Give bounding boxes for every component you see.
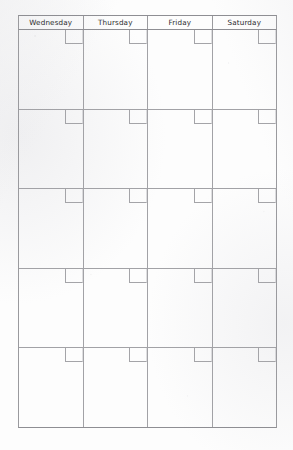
day-cell[interactable] bbox=[213, 269, 277, 348]
column-header-label: Wednesday bbox=[29, 19, 72, 26]
column-header-wednesday: Wednesday bbox=[19, 16, 84, 29]
date-number-box bbox=[65, 189, 83, 203]
date-number bbox=[66, 189, 82, 202]
column-header-saturday: Saturday bbox=[213, 16, 277, 29]
column-header-label: Saturday bbox=[227, 19, 261, 26]
column-header-friday: Friday bbox=[148, 16, 213, 29]
calendar-week-row bbox=[19, 348, 276, 427]
day-cell[interactable] bbox=[19, 269, 84, 348]
date-number-box bbox=[258, 348, 276, 362]
day-cell[interactable] bbox=[213, 110, 277, 189]
date-number-box bbox=[65, 30, 83, 44]
day-cell[interactable] bbox=[213, 30, 277, 109]
date-number bbox=[195, 269, 211, 282]
day-cell[interactable] bbox=[148, 269, 213, 348]
date-number bbox=[130, 110, 146, 123]
date-number bbox=[130, 269, 146, 282]
day-cell[interactable] bbox=[148, 30, 213, 109]
day-cell[interactable] bbox=[148, 110, 213, 189]
date-number-box bbox=[258, 110, 276, 124]
day-cell[interactable] bbox=[84, 269, 149, 348]
date-number bbox=[130, 30, 146, 43]
day-cell[interactable] bbox=[19, 30, 84, 109]
calendar-week-row bbox=[19, 30, 276, 110]
date-number-box bbox=[194, 269, 212, 283]
date-number bbox=[130, 348, 146, 361]
calendar-header-row: Wednesday Thursday Friday Saturday bbox=[18, 15, 277, 30]
day-cell[interactable] bbox=[213, 348, 277, 427]
date-number bbox=[259, 30, 275, 43]
calendar-body bbox=[18, 30, 277, 428]
date-number-box bbox=[129, 110, 147, 124]
date-number-box bbox=[129, 348, 147, 362]
column-header-label: Friday bbox=[168, 19, 191, 26]
day-cell[interactable] bbox=[148, 189, 213, 268]
column-header-thursday: Thursday bbox=[84, 16, 149, 29]
date-number bbox=[195, 348, 211, 361]
day-cell[interactable] bbox=[84, 348, 149, 427]
calendar-week-row bbox=[19, 189, 276, 269]
scanned-page: Wednesday Thursday Friday Saturday bbox=[0, 0, 293, 450]
date-number-box bbox=[258, 189, 276, 203]
day-cell[interactable] bbox=[84, 110, 149, 189]
date-number-box bbox=[129, 30, 147, 44]
date-number-box bbox=[65, 110, 83, 124]
date-number-box bbox=[194, 110, 212, 124]
day-cell[interactable] bbox=[84, 30, 149, 109]
date-number bbox=[66, 30, 82, 43]
day-cell[interactable] bbox=[148, 348, 213, 427]
date-number-box bbox=[194, 348, 212, 362]
date-number-box bbox=[65, 269, 83, 283]
calendar-grid: Wednesday Thursday Friday Saturday bbox=[18, 15, 277, 428]
day-cell[interactable] bbox=[213, 189, 277, 268]
calendar-week-row bbox=[19, 110, 276, 190]
day-cell[interactable] bbox=[84, 189, 149, 268]
date-number-box bbox=[129, 189, 147, 203]
date-number-box bbox=[258, 269, 276, 283]
date-number bbox=[195, 30, 211, 43]
day-cell[interactable] bbox=[19, 110, 84, 189]
date-number-box bbox=[258, 30, 276, 44]
date-number bbox=[195, 189, 211, 202]
date-number-box bbox=[65, 348, 83, 362]
date-number bbox=[66, 110, 82, 123]
date-number-box bbox=[129, 269, 147, 283]
day-cell[interactable] bbox=[19, 348, 84, 427]
date-number bbox=[259, 110, 275, 123]
date-number bbox=[130, 189, 146, 202]
date-number-box bbox=[194, 189, 212, 203]
date-number bbox=[259, 189, 275, 202]
date-number bbox=[259, 269, 275, 282]
calendar-week-row bbox=[19, 269, 276, 349]
date-number bbox=[66, 348, 82, 361]
date-number-box bbox=[194, 30, 212, 44]
date-number bbox=[66, 269, 82, 282]
day-cell[interactable] bbox=[19, 189, 84, 268]
date-number bbox=[195, 110, 211, 123]
column-header-label: Thursday bbox=[98, 19, 133, 26]
date-number bbox=[259, 348, 275, 361]
